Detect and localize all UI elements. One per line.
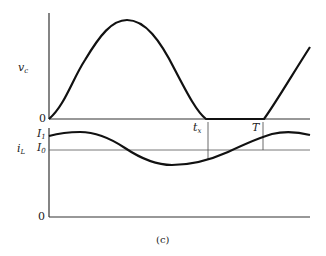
- i1-level-label: I1: [37, 128, 46, 141]
- tx-label: tx: [193, 122, 201, 135]
- T-label: T: [252, 122, 259, 133]
- vc-curve: [49, 20, 310, 119]
- il-zero-label: 0: [38, 211, 45, 222]
- vc-zero-label: 0: [39, 113, 46, 124]
- waveform-diagram: [0, 0, 326, 256]
- figure-caption: (c): [156, 235, 169, 245]
- il-axis-label: iL: [17, 143, 25, 156]
- vc-axis-label: vc: [18, 62, 28, 75]
- i0-level-label: I0: [37, 142, 46, 155]
- il-curve: [49, 132, 310, 165]
